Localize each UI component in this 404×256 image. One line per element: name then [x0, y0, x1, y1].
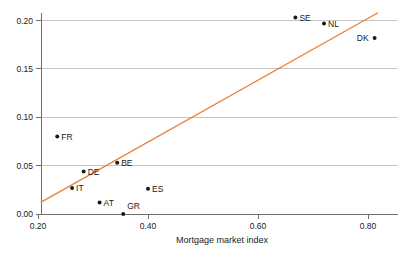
y-tick-label-0: 0.00	[16, 209, 33, 219]
data-point-se: SE	[293, 13, 311, 23]
point-marker-be	[115, 161, 119, 165]
x-tick-label-2: 0.60	[250, 221, 267, 231]
point-marker-nl	[322, 21, 326, 25]
point-label-de: DE	[88, 167, 100, 177]
point-marker-at	[98, 200, 102, 204]
point-marker-fr	[55, 135, 59, 139]
point-marker-dk	[373, 36, 377, 40]
y-tick-labels: 0.000.050.100.150.20	[16, 16, 33, 220]
point-label-se: SE	[299, 13, 311, 23]
data-point-de: DE	[82, 167, 100, 177]
data-point-dk: DK	[357, 33, 377, 43]
y-tick-label-3: 0.15	[16, 64, 33, 74]
data-points: SENLDKFRBEDEITESATGR	[55, 13, 376, 216]
data-point-es: ES	[146, 184, 164, 194]
point-label-gr: GR	[127, 201, 140, 211]
y-tick-label-4: 0.20	[16, 16, 33, 26]
scatter-chart: 0.000.050.100.150.20 0.200.400.600.80 SE…	[0, 0, 404, 256]
point-marker-de	[82, 169, 86, 173]
point-label-es: ES	[152, 184, 164, 194]
point-marker-it	[70, 186, 74, 190]
point-label-be: BE	[121, 158, 133, 168]
point-label-it: IT	[76, 183, 84, 193]
x-tick-labels: 0.200.400.600.80	[30, 221, 377, 231]
data-point-fr: FR	[55, 132, 72, 142]
gridlines	[41, 21, 398, 166]
x-axis-title: Mortgage market index	[176, 235, 269, 245]
point-label-dk: DK	[357, 33, 369, 43]
y-tick-marks	[36, 21, 41, 215]
x-tick-label-3: 0.80	[360, 221, 377, 231]
point-label-at: AT	[104, 198, 114, 208]
data-point-at: AT	[98, 198, 114, 208]
point-label-fr: FR	[61, 132, 72, 142]
x-tick-label-0: 0.20	[30, 221, 47, 231]
x-tick-label-1: 0.40	[140, 221, 157, 231]
y-tick-label-1: 0.05	[16, 161, 33, 171]
point-marker-es	[146, 187, 150, 191]
chart-canvas: 0.000.050.100.150.20 0.200.400.600.80 SE…	[0, 0, 404, 256]
point-label-nl: NL	[328, 19, 339, 29]
data-point-be: BE	[115, 158, 133, 168]
y-tick-label-2: 0.10	[16, 112, 33, 122]
x-tick-marks	[38, 214, 368, 219]
point-marker-gr	[121, 212, 125, 216]
point-marker-se	[293, 16, 297, 20]
